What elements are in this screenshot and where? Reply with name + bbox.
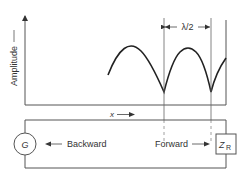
half-wavelength-label: λ/2 [181,22,193,32]
generator: G [14,133,36,155]
generator-label: G [21,140,28,150]
load-impedance: Z R [216,134,236,154]
load-label: Z [218,140,225,150]
standing-wave-diagram: Amplitude λ/2 x G [0,0,250,178]
y-axis-label: Amplitude [9,46,19,86]
standing-wave-curve [108,46,226,92]
x-direction-label: x [109,110,135,119]
forward-indicator: Forward [155,139,210,149]
svg-text:x: x [109,110,115,119]
half-wavelength-dimension: λ/2 [165,22,210,32]
load-subscript: R [226,144,231,151]
backward-label: Backward [67,139,107,149]
backward-indicator: Backward [45,139,107,149]
forward-label: Forward [155,139,188,149]
node-markers [164,18,211,142]
plot-axes [25,16,226,105]
